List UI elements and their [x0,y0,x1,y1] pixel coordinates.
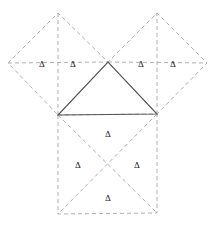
delta-bottom-square-bottom: Δ [105,194,111,203]
delta-left-square-outer: Δ [39,60,45,69]
central-triangle-outline [58,62,157,115]
delta-bottom-square-top: Δ [105,130,111,139]
left-square-on-leg [8,13,108,115]
delta-bottom-square-left: Δ [75,161,81,170]
delta-bottom-square-right: Δ [134,161,140,170]
delta-right-square-outer: Δ [170,60,176,69]
delta-left-square-inner: Δ [70,60,76,69]
delta-right-square-inner: Δ [138,60,144,69]
left-square-diagonal-b [8,62,108,63]
figure-canvas [0,0,219,225]
geometry-figure: Δ Δ Δ Δ Δ Δ Δ Δ [0,0,219,225]
right-square-on-leg [108,13,207,114]
central-right-triangle [58,62,157,115]
right-square-diagonal-b [108,62,207,63]
